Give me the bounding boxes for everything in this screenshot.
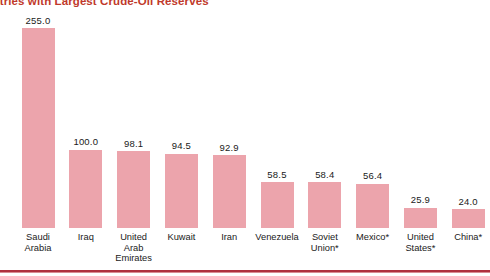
bar-rect[interactable]: [22, 28, 55, 228]
bar-rect[interactable]: [117, 151, 150, 228]
bar-value-label: 25.9: [411, 195, 430, 205]
chart-title: Countries with Largest Crude-Oil Reserve…: [0, 0, 209, 7]
bar-group[interactable]: 58.5Venezuela: [253, 11, 301, 228]
bar-value-label: 58.5: [267, 170, 286, 180]
bar-group[interactable]: 100.0Iraq: [62, 11, 110, 228]
bar-value-label: 100.0: [73, 137, 98, 147]
bar-group[interactable]: 56.4Mexico*: [349, 11, 397, 228]
bar-rect[interactable]: [356, 184, 389, 228]
bar-value-label: 255.0: [26, 16, 51, 26]
bar-chart-plot-area: 255.0Saudi Arabia100.0Iraq98.1United Ara…: [0, 11, 490, 259]
bar-category-label: Mexico*: [348, 232, 398, 243]
bar-value-label: 94.5: [172, 141, 191, 151]
bar-category-label: Soviet Union*: [300, 232, 350, 253]
bar-category-label: United States*: [395, 232, 445, 253]
bar-rect[interactable]: [213, 155, 246, 228]
bar-category-label: Saudi Arabia: [13, 232, 63, 253]
bar-category-label: Iraq: [61, 232, 111, 243]
bar-value-label: 24.0: [459, 197, 478, 207]
bar-category-label: Iran: [204, 232, 254, 243]
bar-group[interactable]: 94.5Kuwait: [157, 11, 205, 228]
bar-rect[interactable]: [452, 209, 485, 228]
bottom-rule-thin: [0, 272, 490, 273]
bar-category-label: United Arab Emirates: [109, 232, 159, 264]
bar-rect[interactable]: [69, 150, 102, 228]
bar-category-label: Kuwait: [156, 232, 206, 243]
bar-group[interactable]: 58.4Soviet Union*: [301, 11, 349, 228]
bar-group[interactable]: 92.9Iran: [205, 11, 253, 228]
bar-category-label: China*: [443, 232, 490, 243]
bar-category-label: Venezuela: [252, 232, 302, 243]
bar-rect[interactable]: [165, 154, 198, 228]
bar-group[interactable]: 24.0China*: [444, 11, 490, 228]
bar-group[interactable]: 98.1United Arab Emirates: [110, 11, 158, 228]
bar-value-label: 58.4: [315, 170, 334, 180]
bar-rect[interactable]: [308, 182, 341, 228]
bar-value-label: 92.9: [220, 143, 239, 153]
bar-rect[interactable]: [261, 182, 294, 228]
bar-group[interactable]: 25.9United States*: [396, 11, 444, 228]
bar-rect[interactable]: [404, 208, 437, 228]
bar-group[interactable]: 255.0Saudi Arabia: [14, 11, 62, 228]
chart-title-container: Countries with Largest Crude-Oil Reserve…: [0, 0, 490, 11]
bar-value-label: 56.4: [363, 171, 382, 181]
bar-value-label: 98.1: [124, 139, 143, 149]
